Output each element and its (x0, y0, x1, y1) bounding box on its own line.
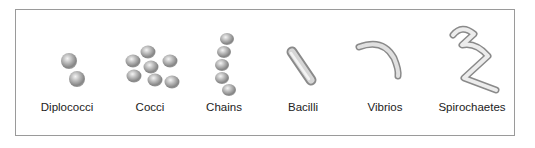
cocci-icon (126, 46, 180, 89)
spirochaetes-icon (453, 29, 496, 90)
chains-icon (215, 33, 236, 96)
label-bacilli: Bacilli (288, 101, 318, 113)
label-spirochaetes: Spirochaetes (438, 101, 505, 113)
label-chains: Chains (206, 101, 242, 113)
bacilli-icon (291, 52, 311, 80)
label-diplococci: Diplococci (41, 101, 93, 113)
label-cocci: Cocci (136, 101, 165, 113)
vibrios-icon (359, 44, 398, 76)
bacteria-illustrations (0, 0, 535, 148)
diplococci-icon (61, 53, 85, 87)
label-vibrios: Vibrios (368, 101, 403, 113)
